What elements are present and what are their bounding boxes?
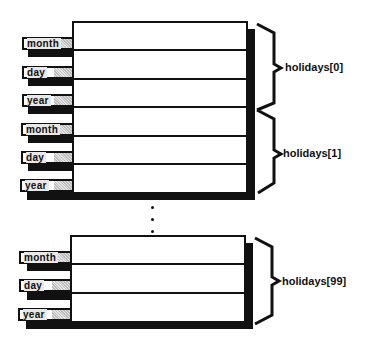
element-label: holidays[99] bbox=[282, 275, 346, 287]
brace-icon bbox=[0, 0, 372, 348]
